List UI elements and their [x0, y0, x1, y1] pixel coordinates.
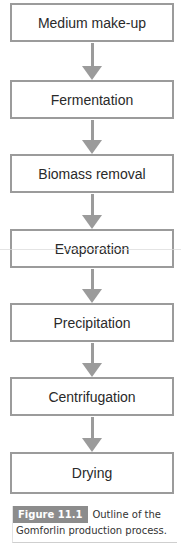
arrow-down-icon	[82, 43, 102, 80]
step-label: Centrifugation	[48, 389, 135, 405]
figure-caption: Figure 11.1Outline of the Gomforlin prod…	[12, 506, 177, 543]
caption-text-line2: Gomforlin production process.	[13, 523, 177, 538]
arrow-down-icon	[82, 269, 102, 303]
step-drying: Drying	[10, 452, 174, 494]
step-biomass-removal: Biomass removal	[10, 154, 174, 193]
scan-artifact-line	[0, 249, 181, 250]
step-medium-make-up: Medium make-up	[10, 3, 174, 42]
step-precipitation: Precipitation	[10, 303, 174, 342]
step-label: Medium make-up	[38, 15, 146, 31]
arrow-down-icon	[82, 417, 102, 452]
step-label: Precipitation	[53, 315, 130, 331]
step-label: Fermentation	[51, 92, 133, 108]
step-label: Drying	[72, 465, 112, 481]
arrow-down-icon	[82, 343, 102, 377]
step-label: Biomass removal	[38, 166, 145, 182]
figure-label-badge: Figure 11.1	[13, 506, 88, 523]
step-centrifugation: Centrifugation	[10, 377, 174, 416]
arrow-down-icon	[82, 194, 102, 229]
caption-text-line1: Outline of the	[92, 509, 161, 520]
arrow-down-icon	[82, 120, 102, 154]
step-fermentation: Fermentation	[10, 80, 174, 119]
